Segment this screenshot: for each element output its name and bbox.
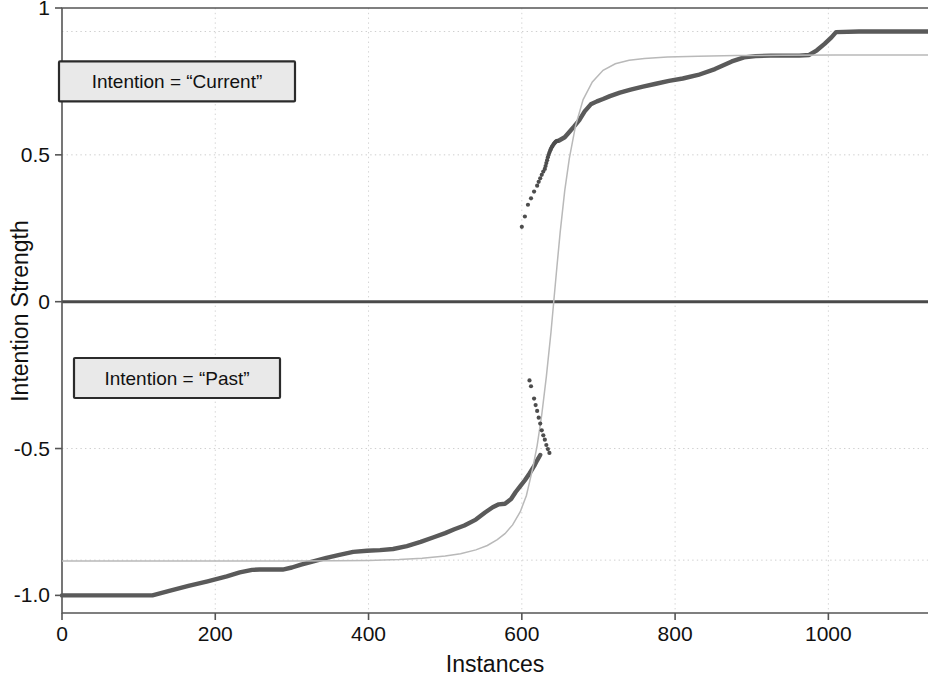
data-point	[541, 433, 545, 437]
data-point	[535, 184, 539, 188]
x-tick-label: 1000	[805, 622, 852, 645]
annot-past: Intention = “Past”	[74, 358, 280, 398]
data-point	[529, 196, 533, 200]
data-point	[540, 428, 544, 432]
data-point	[537, 416, 541, 420]
y-tick-label: -0.5	[14, 437, 50, 460]
data-point	[538, 421, 542, 425]
intention-strength-chart: 10.50-0.5-1.0 02004006008001000 Intentio…	[0, 0, 928, 684]
chart-figure: 10.50-0.5-1.0 02004006008001000 Intentio…	[0, 0, 928, 684]
x-tick-labels: 02004006008001000	[56, 622, 852, 645]
x-tick-label: 400	[351, 622, 386, 645]
data-point	[532, 189, 536, 193]
data-point	[535, 409, 539, 413]
data-point	[547, 451, 551, 455]
data-point	[534, 403, 538, 407]
data-point	[543, 438, 547, 442]
x-tick-marks	[62, 613, 828, 620]
y-tick-label: 0	[38, 290, 50, 313]
data-point	[546, 447, 550, 451]
x-tick-label: 600	[504, 622, 539, 645]
x-tick-label: 800	[658, 622, 693, 645]
data-point	[529, 384, 533, 388]
x-tick-label: 200	[198, 622, 233, 645]
data-point	[520, 225, 524, 229]
y-axis-title: Intention Strength	[7, 220, 33, 402]
annot-current-label: Intention = “Current”	[92, 71, 263, 92]
y-tick-label: 0.5	[21, 143, 50, 166]
data-point	[555, 139, 559, 143]
data-point	[526, 203, 530, 207]
x-axis-title: Instances	[446, 651, 544, 677]
y-tick-label: 1	[38, 0, 50, 19]
data-point	[523, 214, 527, 218]
annot-past-label: Intention = “Past”	[104, 368, 249, 389]
data-point	[544, 443, 548, 447]
data-point	[527, 378, 531, 382]
data-point	[532, 397, 536, 401]
x-tick-label: 0	[56, 622, 68, 645]
annot-current: Intention = “Current”	[59, 61, 295, 101]
y-tick-label: -1.0	[14, 583, 50, 606]
